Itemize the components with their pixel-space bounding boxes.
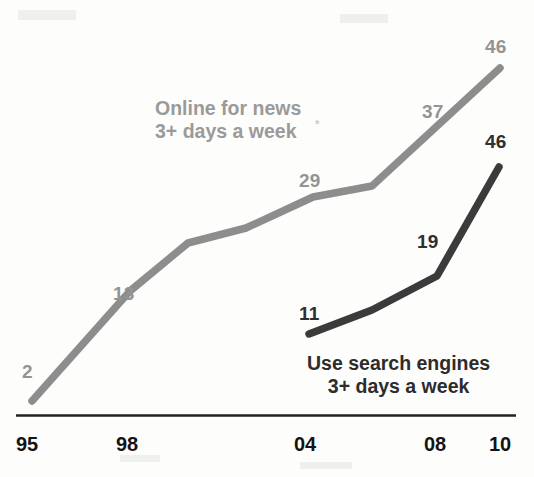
- data-label-search-04: 11: [299, 303, 320, 325]
- footnote-marker: *: [315, 118, 319, 130]
- plot-area: [0, 0, 534, 477]
- caption-line-1: Use search engines: [307, 352, 490, 375]
- data-label-online-95: 2: [22, 361, 33, 383]
- data-label-search-10: 46: [485, 131, 507, 153]
- data-label-online-04: 29: [299, 170, 321, 192]
- x-axis-tick-10: 10: [489, 433, 511, 456]
- data-label-online-08: 37: [422, 101, 444, 123]
- x-axis-tick-04: 04: [294, 433, 316, 456]
- caption-line-1: Online for news: [155, 97, 301, 120]
- x-axis-tick-98: 98: [116, 433, 138, 456]
- x-axis-tick-08: 08: [424, 433, 446, 456]
- series-caption-use-search-engines: Use search engines 3+ days a week: [307, 352, 490, 398]
- chart-figure: 2 13 29 37 46 11 19 46 Online for news 3…: [0, 0, 534, 477]
- caption-line-2: 3+ days a week: [307, 375, 490, 398]
- caption-line-2: 3+ days a week: [155, 120, 301, 143]
- data-label-search-08: 19: [417, 231, 439, 253]
- series-caption-online-for-news: Online for news 3+ days a week: [155, 97, 301, 143]
- x-axis-tick-95: 95: [16, 433, 38, 456]
- data-label-online-10: 46: [485, 36, 507, 58]
- data-label-online-98: 13: [113, 283, 135, 305]
